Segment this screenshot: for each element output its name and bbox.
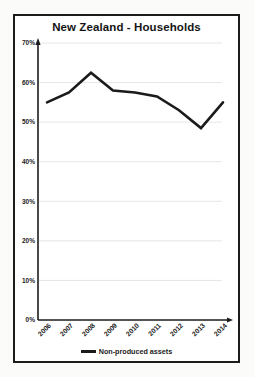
y-tick-label: 10% [22, 277, 35, 284]
legend: Non-produced assets [15, 347, 238, 356]
y-tick-label: 40% [22, 158, 35, 165]
y-tick-label: 50% [22, 118, 35, 125]
line-chart-canvas: 0%10%20%30%40%50%60%70%20062007200820092… [15, 16, 238, 361]
chart-frame: New Zealand - Households 0%10%20%30%40%5… [13, 14, 240, 363]
x-tick-label: 2012 [169, 322, 185, 338]
y-axis-arrow-icon [35, 38, 40, 45]
x-tick-label: 2013 [191, 322, 207, 338]
legend-label: Non-produced assets [99, 347, 173, 356]
x-tick-label: 2011 [147, 322, 163, 338]
x-tick-label: 2008 [81, 322, 97, 338]
y-tick-label: 0% [26, 316, 36, 323]
x-tick-label: 2009 [103, 322, 119, 338]
x-tick-label: 2010 [125, 322, 141, 338]
x-tick-label: 2006 [37, 322, 53, 338]
y-tick-label: 20% [22, 237, 35, 244]
x-tick-label: 2007 [59, 322, 75, 338]
x-axis-arrow-icon [227, 317, 233, 322]
legend-line-swatch [81, 350, 96, 353]
y-tick-label: 70% [22, 39, 35, 46]
y-tick-label: 30% [22, 198, 35, 205]
scanned-chart-page: New Zealand - Households 0%10%20%30%40%5… [0, 0, 254, 377]
x-tick-label: 2014 [213, 322, 229, 338]
series-line-non-produced-assets [47, 73, 223, 128]
y-tick-label: 60% [22, 79, 35, 86]
